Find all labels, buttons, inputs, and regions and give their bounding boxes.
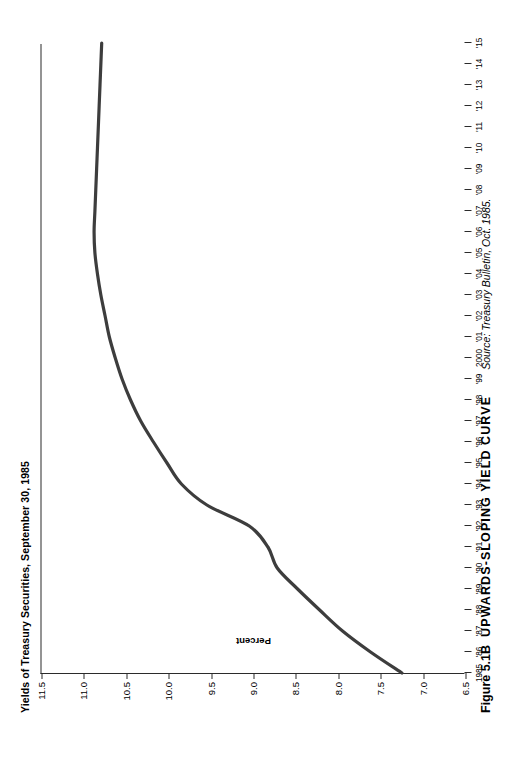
y-axis-tick-label: 10.5 bbox=[120, 682, 131, 701]
chart-title: Yields of Treasury Securities, September… bbox=[18, 461, 30, 713]
y-axis-tick-label: 11.5 bbox=[36, 682, 47, 700]
y-axis-tick-label: 10.0 bbox=[163, 682, 174, 701]
x-axis-tick-label: '13 bbox=[474, 80, 483, 91]
y-axis-tick-label: 7.0 bbox=[417, 682, 428, 695]
y-axis-tick-label: 9.5 bbox=[205, 682, 216, 695]
page: Yields of Treasury Securities, September… bbox=[0, 0, 507, 760]
y-axis-tick bbox=[211, 673, 212, 679]
y-axis-tick-label: 9.0 bbox=[248, 682, 259, 695]
yield-curve-line bbox=[41, 43, 465, 673]
y-axis-tick-label: 8.5 bbox=[290, 682, 301, 695]
y-axis-tick bbox=[295, 673, 296, 679]
y-axis-tick bbox=[83, 673, 84, 679]
x-axis-tick-label: '14 bbox=[474, 59, 483, 70]
y-axis-tick bbox=[423, 673, 424, 679]
y-axis-tick bbox=[253, 673, 254, 679]
x-axis-tick-label: '08 bbox=[474, 185, 483, 196]
caption-title: UPWARDS-SLOPING YIELD CURVE bbox=[478, 396, 492, 637]
figure-caption: Figure 5.1BUPWARDS-SLOPING YIELD CURVESo… bbox=[478, 198, 492, 713]
x-axis-tick-label: '12 bbox=[474, 101, 483, 112]
caption-number: Figure 5.1B bbox=[478, 645, 492, 713]
y-axis-tick-label: 6.5 bbox=[460, 682, 471, 695]
x-axis-tick-label: '09 bbox=[474, 164, 483, 175]
caption-source: Source: Treasury Bulletin, Oct. 1985. bbox=[479, 198, 491, 369]
x-axis-tick-label: '10 bbox=[474, 143, 483, 154]
y-axis-tick bbox=[380, 673, 381, 679]
y-axis-tick bbox=[338, 673, 339, 679]
y-axis-tick-label: 7.5 bbox=[375, 682, 386, 695]
plot-inner: 11.511.010.510.09.59.08.58.07.57.06.5198… bbox=[41, 44, 464, 673]
rotated-figure-wrapper: Yields of Treasury Securities, September… bbox=[0, 0, 507, 760]
y-axis-tick bbox=[41, 673, 42, 679]
y-axis-tick bbox=[465, 673, 466, 679]
y-axis-tick-label: 11.0 bbox=[78, 682, 89, 700]
plot-area: Percent 11.511.010.510.09.59.08.58.07.57… bbox=[40, 44, 464, 674]
y-axis-tick bbox=[126, 673, 127, 679]
figure: Yields of Treasury Securities, September… bbox=[0, 0, 507, 760]
y-axis-tick bbox=[168, 673, 169, 679]
y-axis-tick-label: 8.0 bbox=[332, 682, 343, 695]
x-axis-tick-label: '15 bbox=[474, 38, 483, 49]
x-axis-tick-label: '11 bbox=[474, 122, 483, 132]
